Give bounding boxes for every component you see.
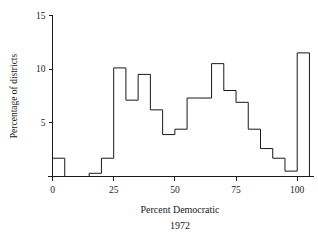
x-axis-subtitle-year: 1972 — [170, 220, 190, 231]
chart-background — [0, 0, 318, 237]
x-tick-label-25: 25 — [109, 185, 119, 195]
x-axis-title: Percent Democratic — [140, 204, 220, 215]
x-tick-label-50: 50 — [170, 185, 180, 195]
x-tick-label-75: 75 — [231, 185, 241, 195]
y-tick-label-15: 15 — [36, 11, 46, 21]
x-tick-label-0: 0 — [50, 185, 55, 195]
histogram-figure: 51015 0255075100 Percent Democratic 1972… — [0, 0, 318, 237]
y-axis-title: Percentage of districts — [9, 53, 19, 138]
y-tick-label-5: 5 — [41, 118, 46, 128]
y-tick-label-10: 10 — [36, 64, 46, 74]
x-tick-label-100: 100 — [290, 185, 305, 195]
percent-democratic-histogram: 51015 0255075100 Percent Democratic 1972… — [0, 0, 318, 237]
